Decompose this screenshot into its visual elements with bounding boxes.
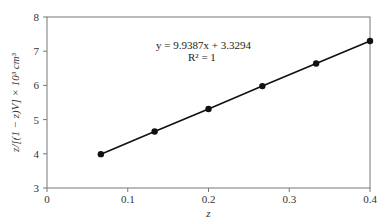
y-tick-label: 6 [34,79,40,91]
y-tick-label: 4 [34,148,40,160]
regression-equation: y = 9.9387x + 3.3294 [156,39,251,51]
x-tick-label: 0.2 [202,193,216,205]
data-point [367,38,373,44]
series-line [101,41,370,154]
x-tick-label: 0.1 [121,193,135,205]
y-axis: 345678 [34,11,48,194]
x-tick-label: 0.4 [363,193,377,205]
annotations: y = 9.9387x + 3.3294R² = 1 [156,39,251,63]
y-tick-label: 8 [34,11,40,23]
y-axis-label: z/[(1 − z)V] × 10³ cm³ [9,52,22,152]
data-point [205,106,211,112]
series-group [98,38,374,158]
x-tick-label: 0 [44,193,50,205]
y-tick-label: 5 [34,114,40,126]
x-axis: 00.10.20.30.4 [44,188,377,205]
x-axis-label: z [205,207,211,219]
y-tick-label: 3 [34,182,40,194]
data-point [98,151,104,157]
y-tick-label: 7 [34,45,40,57]
r-squared-label: R² = 1 [188,51,216,63]
data-point [151,128,157,134]
chart: 345678 00.10.20.30.4 y = 9.9387x + 3.329… [0,0,389,224]
x-tick-label: 0.3 [282,193,296,205]
data-point [313,60,319,66]
data-point [259,83,265,89]
